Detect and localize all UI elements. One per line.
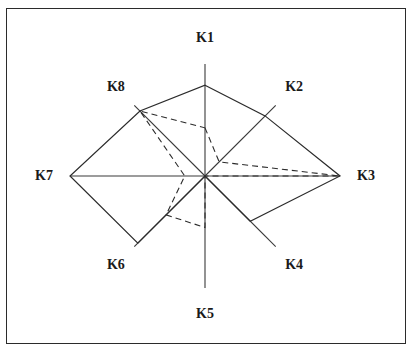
axis-label-k2: K2 xyxy=(285,79,303,95)
axis-spoke-k8 xyxy=(134,105,205,176)
axis-label-k8: K8 xyxy=(107,79,125,95)
radar-plot-svg xyxy=(0,0,415,355)
axis-label-k3: K3 xyxy=(357,168,375,184)
axis-label-k1: K1 xyxy=(196,30,214,46)
series-polygon-2-dashed xyxy=(140,111,340,228)
radar-chart-figure: K1 K2 K3 K4 K5 K6 K7 K8 xyxy=(0,0,415,355)
axis-label-k4: K4 xyxy=(285,257,303,273)
axis-label-k7: K7 xyxy=(35,168,53,184)
axis-label-k6: K6 xyxy=(107,257,125,273)
axis-label-k5: K5 xyxy=(196,306,214,322)
